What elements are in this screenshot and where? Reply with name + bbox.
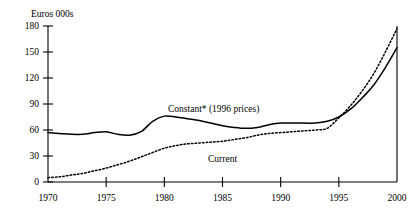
x-tick-label: 1975 (97, 193, 116, 203)
chart-page: Euros 000s 0306090120150180 197019751980… (0, 0, 417, 210)
y-axis-ticks: 0306090120150180 (25, 21, 53, 187)
x-tick-label: 1990 (271, 193, 290, 203)
y-tick-label: 60 (30, 125, 40, 135)
line-chart: Euros 000s 0306090120150180 197019751980… (0, 0, 417, 210)
y-tick-label: 0 (34, 177, 39, 187)
x-tick-label: 1985 (213, 193, 232, 203)
y-tick-label: 120 (25, 73, 40, 83)
annotation-group: Constant* (1996 prices)Current (168, 104, 259, 164)
x-tick-label: 1980 (155, 193, 174, 203)
y-tick-label: 180 (25, 21, 40, 31)
y-tick-label: 150 (25, 47, 40, 57)
x-axis-ticks: 1970197519801985199019952000 (39, 177, 407, 203)
series-line-constant (48, 48, 397, 136)
series-annotation: Current (208, 154, 237, 164)
x-tick-label: 1995 (329, 193, 348, 203)
series-annotation: Constant* (1996 prices) (168, 104, 259, 115)
y-tick-label: 30 (30, 151, 40, 161)
x-tick-label: 1970 (39, 193, 58, 203)
x-tick-label: 2000 (388, 193, 407, 203)
y-tick-label: 90 (30, 99, 40, 109)
y-axis-title: Euros 000s (31, 9, 74, 19)
